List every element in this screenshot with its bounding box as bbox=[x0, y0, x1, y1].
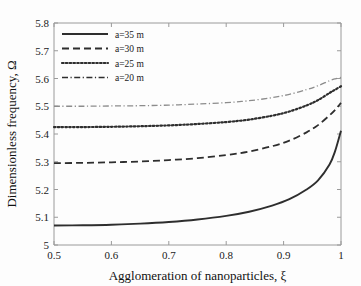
y-axis-tick-labels: 55.15.25.35.45.55.65.75.8 bbox=[35, 17, 49, 251]
legend-label: a=35 m bbox=[115, 30, 144, 40]
y-tick-label: 5.3 bbox=[35, 156, 49, 168]
y-tick-label: 5.8 bbox=[35, 17, 49, 29]
figure-container: 0.50.60.70.80.91 55.15.25.35.45.55.65.75… bbox=[0, 0, 361, 286]
legend-label: a=20 m bbox=[115, 73, 144, 83]
legend-label: a=25 m bbox=[115, 59, 144, 69]
y-axis-label: Dimensionless frequency, Ω bbox=[4, 60, 19, 207]
line-chart: 0.50.60.70.80.91 55.15.25.35.45.55.65.75… bbox=[0, 0, 361, 286]
y-tick-label: 5.4 bbox=[35, 128, 49, 140]
x-axis-label: Agglomeration of nanoparticles, ξ bbox=[109, 268, 287, 283]
x-tick-label: 0.6 bbox=[105, 249, 119, 261]
x-tick-label: 0.8 bbox=[219, 249, 233, 261]
y-tick-label: 5 bbox=[44, 239, 50, 251]
x-tick-label: 0.7 bbox=[162, 249, 176, 261]
y-tick-label: 5.2 bbox=[35, 184, 49, 196]
y-tick-label: 5.7 bbox=[35, 45, 49, 57]
legend-label: a=30 m bbox=[115, 44, 144, 54]
x-tick-label: 1 bbox=[338, 249, 344, 261]
y-tick-label: 5.6 bbox=[35, 73, 49, 85]
x-tick-label: 0.9 bbox=[277, 249, 291, 261]
x-tick-label: 0.5 bbox=[47, 249, 61, 261]
y-tick-label: 5.5 bbox=[35, 100, 49, 112]
y-tick-label: 5.1 bbox=[35, 211, 49, 223]
